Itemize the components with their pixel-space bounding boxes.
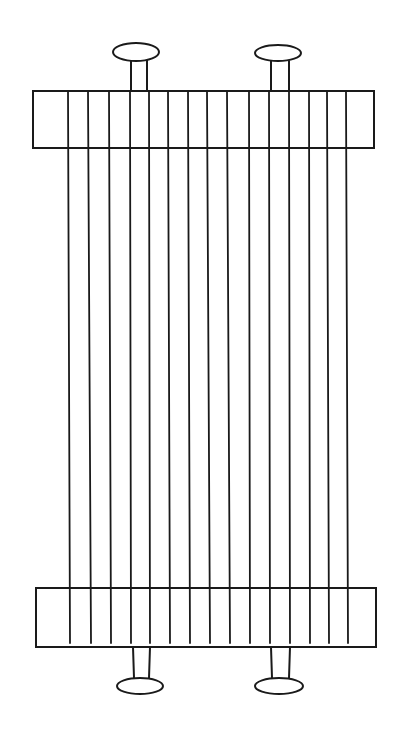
warp-thread <box>88 91 91 643</box>
knob-stem <box>271 647 272 678</box>
knob-head <box>255 45 301 61</box>
loom-drawing <box>0 0 406 738</box>
beams <box>33 91 376 647</box>
knob-stem <box>289 647 290 678</box>
top-left-knob <box>113 43 159 91</box>
warp-thread <box>168 91 170 643</box>
warp-thread <box>207 91 210 643</box>
knob-stem <box>149 647 150 678</box>
warp-thread <box>346 91 348 643</box>
loom-diagram <box>0 0 406 738</box>
warp-thread <box>227 91 230 643</box>
warp-thread <box>149 91 150 643</box>
warp-thread <box>188 91 190 643</box>
warp-thread <box>130 91 131 643</box>
warp-threads-on-beams <box>68 91 348 643</box>
warp-thread <box>68 91 70 643</box>
knob-head <box>255 678 303 694</box>
top-right-knob <box>255 45 301 91</box>
knob-stem <box>133 647 134 678</box>
warp-thread <box>249 91 250 643</box>
warp-thread <box>309 91 310 643</box>
bottom-right-knob <box>255 647 303 694</box>
knob-head <box>117 678 163 694</box>
warp-thread <box>269 91 270 643</box>
knob-head <box>113 43 159 61</box>
bottom-left-knob <box>117 647 163 694</box>
warp-thread <box>109 91 111 643</box>
bottom-beam <box>36 588 376 647</box>
warp-thread <box>327 91 329 643</box>
top-beam <box>33 91 374 148</box>
warp-thread <box>289 91 290 643</box>
